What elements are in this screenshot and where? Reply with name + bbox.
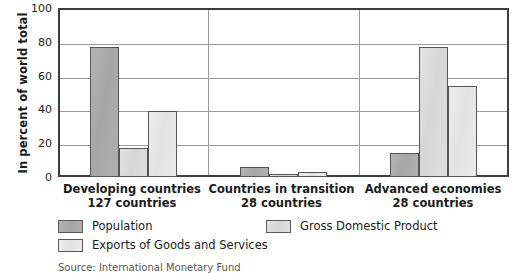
y-axis-tick-labels: 100 80 60 40 20 0 xyxy=(18,8,52,177)
bar-exports-0 xyxy=(148,111,177,177)
legend-swatch-exports-icon xyxy=(58,239,83,252)
category-label-developing-countries: Developing countries 127 countries xyxy=(58,182,206,210)
x-axis-category-labels: Developing countries 127 countries Count… xyxy=(58,182,509,214)
bar-population-2 xyxy=(390,153,419,177)
y-tick-20: 20 xyxy=(18,138,52,149)
legend-item-population[interactable]: Population xyxy=(58,220,152,233)
category-name-1: Countries in transition xyxy=(208,182,354,196)
legend-label-gdp: Gross Domestic Product xyxy=(300,220,438,233)
y-tick-0: 0 xyxy=(18,172,52,183)
legend-label-population: Population xyxy=(92,220,152,233)
legend-item-gross-domestic-product[interactable]: Gross Domestic Product xyxy=(266,220,438,233)
gridline-80 xyxy=(60,44,507,45)
y-tick-100: 100 xyxy=(18,3,52,14)
bar-exports-1 xyxy=(298,172,327,177)
y-tick-40: 40 xyxy=(18,104,52,115)
bar-chart-figure: In percent of world total 100 80 60 40 2… xyxy=(0,0,518,273)
bar-gdp-1 xyxy=(269,174,298,177)
bar-population-0 xyxy=(90,47,119,177)
legend-item-exports-of-goods-and-services[interactable]: Exports of Goods and Services xyxy=(58,239,268,252)
category-sub-0: 127 countries xyxy=(58,196,206,210)
category-name-0: Developing countries xyxy=(63,182,201,196)
y-tick-80: 80 xyxy=(18,37,52,48)
category-label-advanced-economies: Advanced economies 28 countries xyxy=(357,182,509,210)
legend-label-exports: Exports of Goods and Services xyxy=(92,239,268,252)
bar-exports-2 xyxy=(448,86,477,177)
bar-gdp-2 xyxy=(419,47,448,177)
y-tick-60: 60 xyxy=(18,71,52,82)
group-divider-1 xyxy=(208,10,209,175)
legend-swatch-population-icon xyxy=(58,220,83,233)
category-name-2: Advanced economies xyxy=(365,182,502,196)
chart-legend: Population Gross Domestic Product Export… xyxy=(58,220,498,258)
group-divider-2 xyxy=(359,10,360,175)
source-note: Source: International Monetary Fund xyxy=(58,262,241,273)
legend-swatch-gdp-icon xyxy=(266,220,291,233)
category-sub-1: 28 countries xyxy=(206,196,357,210)
category-sub-2: 28 countries xyxy=(357,196,509,210)
bar-gdp-0 xyxy=(119,148,148,177)
bar-population-1 xyxy=(240,167,269,177)
category-label-countries-in-transition: Countries in transition 28 countries xyxy=(206,182,357,210)
